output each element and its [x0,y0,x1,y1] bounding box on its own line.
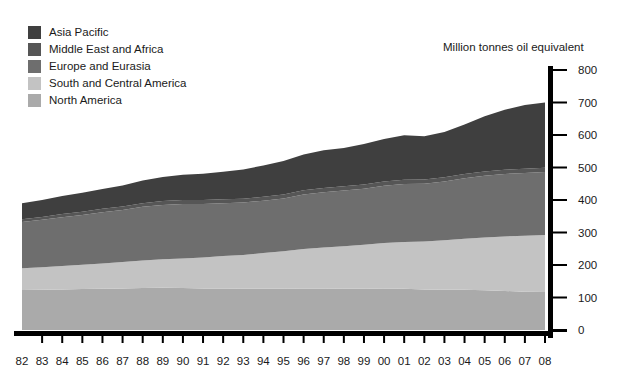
x-axis-tick-label: 03 [438,355,451,367]
y-axis-tick [553,69,567,71]
x-axis-tick-label: 86 [96,355,109,367]
x-axis-tick [303,336,305,343]
y-axis-tick-label: 0 [578,324,584,336]
x-axis-tick [262,336,264,343]
plot-svg [0,0,620,385]
x-axis-tick [61,336,63,343]
x-axis-tick-label: 91 [197,355,210,367]
x-axis-tick [222,336,224,343]
x-axis-tick-label: 08 [539,355,552,367]
x-axis-tick-label: 00 [378,355,391,367]
x-axis-tick [544,336,546,343]
x-axis-tick-label: 94 [257,355,270,367]
x-axis-tick-label: 87 [116,355,129,367]
y-axis-tick-label: 300 [578,227,597,239]
x-axis-tick-label: 97 [317,355,330,367]
x-axis-tick-label: 88 [136,355,149,367]
x-axis-tick [323,336,325,343]
x-axis-tick-label: 93 [237,355,250,367]
y-axis-tick-label: 200 [578,259,597,271]
x-axis-tick-label: 01 [398,355,411,367]
x-axis-tick [41,336,43,343]
x-axis-tick [383,336,385,343]
y-axis-tick-label: 700 [578,97,597,109]
y-axis-tick [553,264,567,266]
x-axis-tick [81,336,83,343]
x-axis-tick-label: 96 [297,355,310,367]
y-axis-line [548,66,553,338]
x-axis-tick-label: 95 [277,355,290,367]
x-axis-tick-label: 85 [76,355,89,367]
y-axis-tick-labels: 0100200300400500600700800 [578,0,620,385]
stacked-area-chart: Asia Pacific Middle East and Africa Euro… [0,0,620,385]
x-axis-tick-label: 90 [177,355,190,367]
y-axis-tick-label: 500 [578,162,597,174]
area-series-north-america [22,288,545,330]
plot-area [0,0,620,385]
y-axis-tick-label: 400 [578,194,597,206]
y-axis-tick [553,102,567,104]
y-axis-tick [553,232,567,234]
x-axis-tick [182,336,184,343]
y-axis-tick-label: 600 [578,129,597,141]
x-axis-tick [142,336,144,343]
x-axis-tick [202,336,204,343]
x-axis-tick [242,336,244,343]
x-axis-tick [283,336,285,343]
x-axis-tick [363,336,365,343]
x-axis-tick-label: 89 [156,355,169,367]
x-axis-tick [443,336,445,343]
x-axis-tick-label: 84 [56,355,69,367]
x-axis-tick [343,336,345,343]
y-axis-tick [553,329,567,332]
x-axis-tick [101,336,103,343]
x-axis-tick [464,336,466,343]
x-axis-tick-label: 02 [418,355,431,367]
x-axis-tick [403,336,405,343]
x-axis-tick-label: 07 [518,355,531,367]
y-axis-tick [553,134,567,136]
x-axis-tick [504,336,506,343]
x-axis-tick-label: 83 [36,355,49,367]
x-axis-tick-label: 99 [358,355,371,367]
y-axis-tick-label: 100 [578,292,597,304]
x-axis-tick-label: 92 [217,355,230,367]
x-axis-tick [423,336,425,343]
x-axis-line [14,331,553,336]
y-axis-tick [553,199,567,201]
y-axis-tick-label: 800 [578,64,597,76]
y-axis-tick [553,297,567,299]
x-axis-tick-label: 98 [337,355,350,367]
x-axis-tick [484,336,486,343]
x-axis-tick [122,336,124,343]
x-axis-tick-label: 05 [478,355,491,367]
x-axis-tick-label: 04 [458,355,471,367]
x-axis-tick [524,336,526,343]
x-axis-tick-label: 06 [498,355,511,367]
y-axis-tick [553,167,567,169]
x-axis-tick-label: 82 [16,355,29,367]
x-axis-tick-labels: 8283848586878889909192939495969798990001… [0,355,620,375]
x-axis-tick [162,336,164,343]
